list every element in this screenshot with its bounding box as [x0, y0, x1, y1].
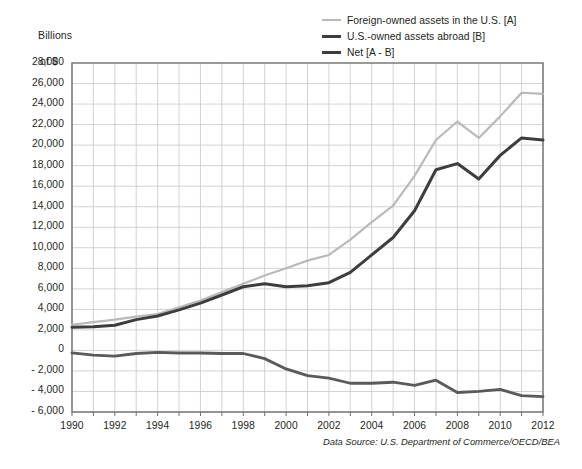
- chart-figure: Billions of $ Foreign-owned assets in th…: [0, 0, 582, 469]
- plot-area: [0, 0, 582, 469]
- gridlines: [72, 63, 543, 412]
- data-source-note: Data Source: U.S. Department of Commerce…: [323, 436, 560, 447]
